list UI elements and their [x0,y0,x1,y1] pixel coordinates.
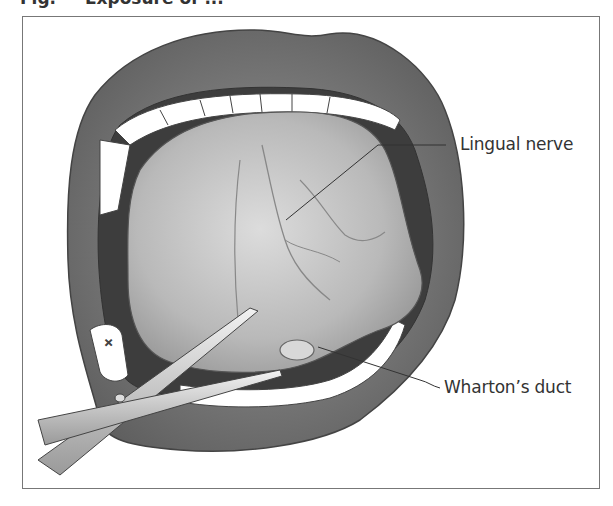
label-lingual-nerve: Lingual nerve [460,134,573,154]
svg-text:×: × [104,336,113,349]
label-whartons-duct: Wharton’s duct [444,377,571,397]
scissors-pivot-icon [115,394,125,402]
whartons-duct-orifice [280,340,314,360]
mouth-illustration: × [0,0,613,506]
